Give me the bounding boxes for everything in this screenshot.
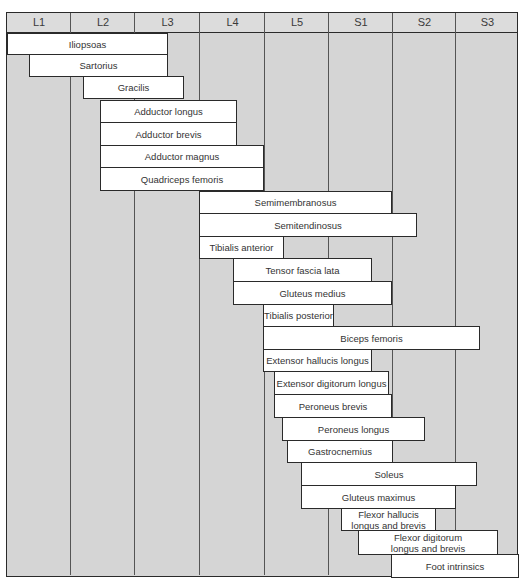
segment-header-l4: L4 bbox=[200, 13, 265, 32]
segment-header-l2: L2 bbox=[71, 13, 135, 32]
column-divider bbox=[70, 13, 71, 575]
segment-header-row: L1L2L3L4L5S1S2S3 bbox=[7, 13, 517, 33]
muscle-bar-adductor-longus: Adductor longus bbox=[100, 100, 237, 123]
muscle-bar-semitendinosus: Semitendinosus bbox=[199, 213, 417, 237]
muscle-bar-gastrocnemius: Gastrocnemius bbox=[287, 440, 393, 463]
muscle-bar-semimembranosus: Semimembranosus bbox=[199, 191, 392, 214]
muscle-bar-biceps-femoris: Biceps femoris bbox=[263, 326, 480, 350]
myotome-chart: L1L2L3L4L5S1S2S3 IliopsoasSartoriusGraci… bbox=[6, 12, 518, 577]
muscle-bar-gluteus-maximus: Gluteus maximus bbox=[301, 485, 456, 509]
segment-header-s3: S3 bbox=[456, 13, 519, 32]
muscle-bar-flexor-hallucis-longus-and-brevis: Flexor hallucis longus and brevis bbox=[341, 508, 436, 531]
muscle-bar-extensor-hallucis-longus: Extensor hallucis longus bbox=[263, 349, 372, 372]
muscle-bar-gluteus-medius: Gluteus medius bbox=[233, 281, 392, 305]
muscle-bar-tibialis-posterior: Tibialis posterior bbox=[263, 304, 334, 327]
segment-header-l5: L5 bbox=[265, 13, 329, 32]
segment-header-l3: L3 bbox=[135, 13, 200, 32]
muscle-bar-iliopsoas: Iliopsoas bbox=[7, 33, 168, 55]
muscle-bar-tensor-fascia-lata: Tensor fascia lata bbox=[233, 258, 372, 282]
muscle-bar-peroneus-longus: Peroneus longus bbox=[282, 417, 425, 441]
muscle-bar-gracilis: Gracilis bbox=[83, 76, 184, 99]
muscle-bar-extensor-digitorum-longus: Extensor digitorum longus bbox=[274, 371, 389, 395]
segment-header-s1: S1 bbox=[329, 13, 393, 32]
muscle-bar-flexor-digitorum-longus-and-brevis: Flexor digitorum longus and brevis bbox=[358, 530, 498, 555]
muscle-bar-soleus: Soleus bbox=[301, 462, 477, 486]
muscle-bar-foot-intrinsics: Foot intrinsics bbox=[391, 554, 519, 578]
muscle-bar-tibialis-anterior: Tibialis anterior bbox=[199, 236, 284, 259]
column-divider bbox=[199, 13, 200, 575]
muscle-bar-sartorius: Sartorius bbox=[29, 54, 168, 77]
segment-header-l1: L1 bbox=[7, 13, 71, 32]
muscle-bar-adductor-magnus: Adductor magnus bbox=[100, 145, 264, 168]
segment-header-s2: S2 bbox=[393, 13, 456, 32]
muscle-bar-quadriceps-femoris: Quadriceps femoris bbox=[100, 167, 264, 191]
muscle-bar-peroneus-brevis: Peroneus brevis bbox=[274, 394, 392, 418]
muscle-bar-adductor-brevis: Adductor brevis bbox=[100, 122, 237, 146]
